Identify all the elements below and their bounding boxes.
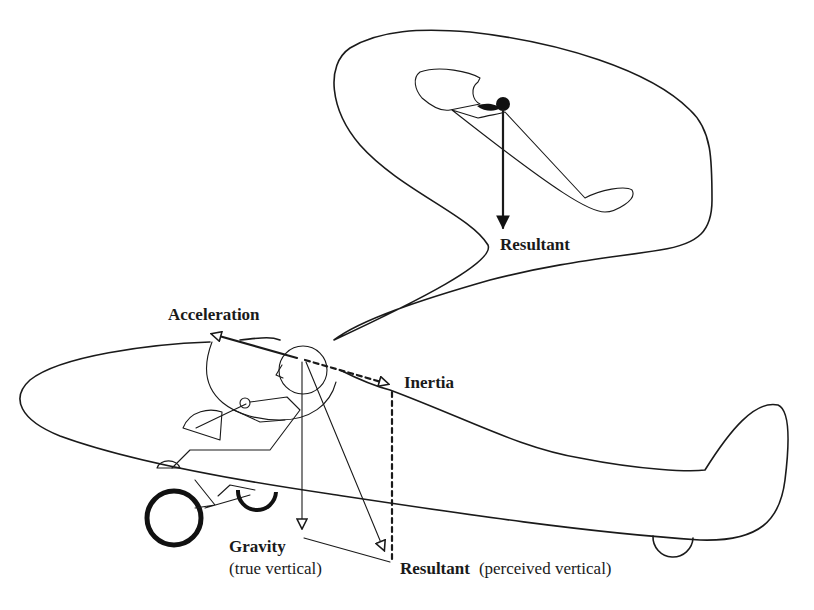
gear-strut bbox=[195, 480, 255, 508]
acceleration-label: Acceleration bbox=[168, 305, 260, 324]
resultant-arrow bbox=[306, 362, 384, 550]
pilot-arm bbox=[172, 397, 300, 468]
resultant-label: Resultant (perceived vertical) bbox=[400, 559, 612, 578]
inertia-arrow bbox=[305, 360, 388, 384]
pilot-head bbox=[279, 346, 327, 394]
resultant-label-main: Resultant bbox=[400, 559, 470, 578]
cockpit-arc bbox=[207, 342, 336, 420]
gravity-label: Gravity bbox=[229, 537, 286, 556]
resultant-label-note: (perceived vertical) bbox=[479, 559, 612, 578]
aircraft-fuselage bbox=[20, 342, 788, 540]
pilot-leg bbox=[234, 410, 285, 422]
main-wheel bbox=[147, 491, 201, 545]
aircraft-top-line bbox=[240, 338, 280, 340]
bubble-resultant-label: Resultant bbox=[500, 235, 570, 254]
pilot-joint bbox=[240, 398, 250, 408]
acceleration-arrow bbox=[212, 334, 297, 358]
somatogravic-diagram: Resultant Acceleration Inertia Gravity (… bbox=[0, 0, 814, 610]
perceived-aircraft-body bbox=[452, 110, 633, 212]
perceived-aircraft bbox=[415, 69, 480, 110]
thought-bubble bbox=[334, 30, 712, 340]
gravity-note: (true vertical) bbox=[229, 559, 322, 578]
inertia-label: Inertia bbox=[404, 373, 455, 392]
front-wheel bbox=[238, 490, 276, 510]
